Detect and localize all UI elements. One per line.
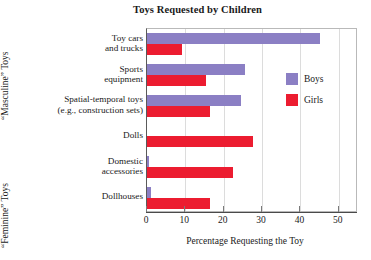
bar-group [147,121,356,152]
category-label-line: Sports [22,64,143,75]
group-axis-label-feminine-text: “Feminine” Toys [0,183,10,248]
bar-girls [147,136,253,147]
x-axis-tick [338,206,339,212]
group-axis-label-masculine-text: “Masculine” Toys [0,51,10,120]
category-label-line: Spatial-temporal toys [22,94,143,105]
legend-swatch-boys [286,73,298,85]
bar-boys [147,156,149,167]
bar-boys [147,64,245,75]
bar-group [147,60,356,91]
category-axis-labels: Toy carsand trucksSportsequipmentSpatial… [22,33,145,212]
x-axis-tick-label: 10 [171,215,197,225]
chart-title: Toys Requested by Children [0,4,371,15]
x-axis-tick-label: 0 [133,215,159,225]
category-label: Domesticaccessories [22,156,143,177]
category-label-line: Domestic [22,156,143,167]
legend-label: Boys [304,74,324,84]
legend-item-girls[interactable]: Girls [286,93,324,106]
bar-girls [147,44,182,55]
category-label: Sportsequipment [22,64,143,85]
x-axis-tick [184,206,185,212]
bar-girls [147,167,233,178]
x-axis-tick [261,206,262,212]
category-label-line: accessories [22,166,143,177]
bar-boys [147,187,151,198]
category-label: Dollhouses [22,191,143,202]
x-axis-line [146,212,357,213]
category-label-line: equipment [22,74,143,85]
category-label-line: and trucks [22,43,143,54]
chart-container: Toys Requested by Children “Masculine” T… [0,0,371,260]
category-label-line: Toy cars [22,33,143,44]
bar-group [147,90,356,121]
legend-label: Girls [304,95,323,105]
x-axis-title: Percentage Requesting the Toy [120,236,370,246]
group-axis-label-feminine: “Feminine” Toys [0,232,10,248]
category-label-line: Dolls [22,130,143,141]
plot-area [146,28,357,212]
bar-group [147,182,356,212]
x-axis-tick-label: 50 [325,215,351,225]
legend-item-boys[interactable]: Boys [286,72,324,85]
x-axis-tick [146,206,147,212]
x-axis-tick [223,206,224,212]
bar-boys [147,33,320,44]
bar-boys [147,95,241,106]
bar-girls [147,75,206,86]
x-axis-tick-label: 40 [286,215,312,225]
legend-swatch-girls [286,94,298,106]
bar-girls [147,106,210,117]
x-axis-tick-label: 30 [248,215,274,225]
category-label-line: (e.g., construction sets) [22,105,143,116]
x-axis-tick [299,206,300,212]
x-axis-tick-label: 20 [210,215,236,225]
bar-group [147,29,356,60]
category-label-line: Dollhouses [22,191,143,202]
bar-group [147,152,356,183]
chart-legend: BoysGirls [286,72,324,114]
category-label: Dolls [22,130,143,141]
group-axis-label-masculine: “Masculine” Toys [0,104,10,120]
category-label: Spatial-temporal toys(e.g., construction… [22,94,143,115]
bar-girls [147,198,210,209]
category-label: Toy carsand trucks [22,33,143,54]
